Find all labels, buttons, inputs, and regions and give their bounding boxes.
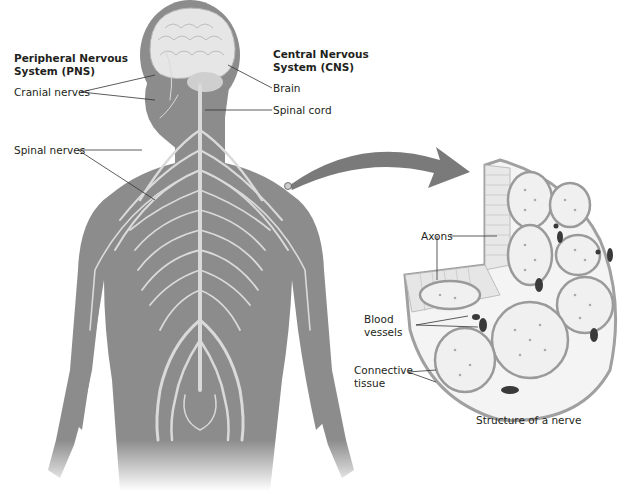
caption: Structure of a nerve bbox=[476, 414, 582, 427]
cns-title: Central Nervous System (CNS) bbox=[273, 48, 369, 73]
nerve-sample-point bbox=[285, 183, 292, 190]
nerve-cross-section bbox=[405, 160, 616, 420]
label-blood-vessels: Blood vessels bbox=[364, 313, 402, 338]
zoom-arrow bbox=[290, 147, 470, 190]
label-spinal-nerves: Spinal nerves bbox=[14, 144, 85, 157]
label-connective-tissue: Connective tissue bbox=[354, 364, 413, 389]
label-brain: Brain bbox=[273, 82, 301, 95]
pns-title: Peripheral Nervous System (PNS) bbox=[14, 52, 128, 77]
label-cranial-nerves: Cranial nerves bbox=[14, 86, 90, 99]
label-spinal-cord: Spinal cord bbox=[273, 104, 332, 117]
label-axons: Axons bbox=[421, 230, 453, 243]
